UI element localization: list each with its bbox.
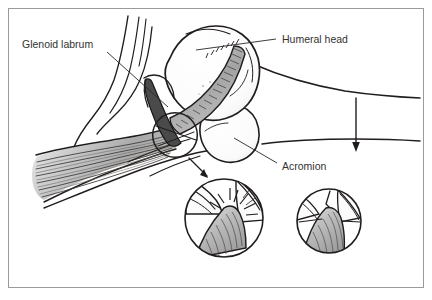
anatomy-illustration-svg: Glenoid labrum Humeral head Acromion (0, 0, 432, 300)
impingement-inset (185, 178, 264, 258)
label-humeral-head: Humeral head (282, 33, 348, 45)
label-acromion: Acromion (282, 160, 327, 172)
label-glenoid-labrum: Glenoid labrum (22, 38, 93, 50)
illustration-root: Glenoid labrum Humeral head Acromion (0, 0, 432, 300)
